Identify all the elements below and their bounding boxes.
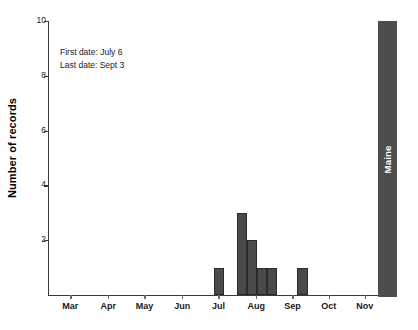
x-tick-mark [218,295,219,299]
state-band-label: Maine [382,145,393,173]
y-tick-label: 4 [41,179,46,190]
y-tick-label: 8 [41,70,46,81]
x-tick-mark [365,295,366,299]
annotation-first-date: First date: July 6 [60,46,124,59]
bar [257,268,267,295]
bar [247,240,257,295]
bar [214,268,224,295]
x-tick-label: May [136,301,154,311]
x-tick-label: Nov [356,301,373,311]
state-band-maine: Maine [378,21,397,297]
y-tick-label: 6 [41,125,46,136]
x-tick-mark [329,295,330,299]
bar [237,213,247,295]
annotation-last-date: Last date: Sept 3 [60,59,124,72]
y-axis-title: Number of records [2,0,22,296]
chart-figure: Number of records 246810 MarAprMayJunJul… [0,0,418,330]
x-tick-label: Jun [174,301,190,311]
x-tick-mark [292,295,293,299]
x-tick-label: Mar [62,301,78,311]
x-tick-label: Sep [284,301,301,311]
x-tick-mark [144,295,145,299]
y-tick-label: 2 [41,234,46,245]
x-tick-label: Apr [100,301,116,311]
x-tick-mark [70,295,71,299]
x-tick-mark [256,295,257,299]
date-range-annotation: First date: July 6 Last date: Sept 3 [60,46,124,72]
x-tick-mark [182,295,183,299]
bar [267,268,277,295]
x-tick-mark [108,295,109,299]
bar [297,268,307,295]
x-tick-label: Aug [248,301,266,311]
x-tick-label: Jul [212,301,225,311]
y-axis-title-text: Number of records [6,98,18,198]
y-tick-label: 10 [37,15,46,26]
x-tick-label: Oct [321,301,336,311]
